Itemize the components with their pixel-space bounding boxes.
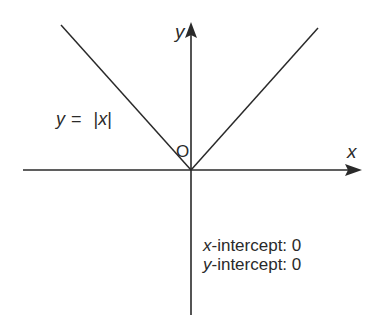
graph-canvas	[0, 0, 375, 333]
equation-var: x	[98, 109, 107, 129]
y-intercept-line: y-intercept: 0	[203, 256, 301, 275]
y-intercept-text: -intercept: 0	[212, 255, 302, 274]
x-intercept-text: -intercept: 0	[212, 236, 302, 255]
abs-bar-right: |	[107, 109, 112, 129]
x-intercept-var: x	[203, 236, 212, 255]
abs-right-branch	[191, 28, 318, 170]
intercepts-note: x-intercept: 0 y-intercept: 0	[203, 237, 301, 275]
equation-equals: =	[71, 109, 82, 129]
equation-label: y=|x|	[56, 110, 112, 128]
x-intercept-line: x-intercept: 0	[203, 237, 301, 256]
origin-label: O	[176, 143, 189, 160]
x-axis-label: x	[347, 142, 357, 161]
equation-lhs: y	[56, 109, 65, 129]
y-axis-label: y	[175, 22, 185, 41]
y-intercept-var: y	[203, 255, 212, 274]
abs-left-branch	[61, 25, 191, 170]
